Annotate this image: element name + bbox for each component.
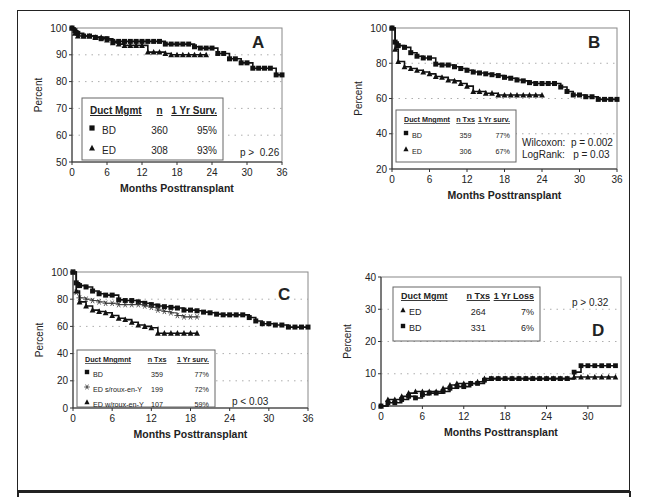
legend-header: 1 Yr Loss bbox=[494, 291, 534, 301]
y-tick-label: 70 bbox=[56, 103, 68, 114]
panel-label: A bbox=[252, 33, 264, 52]
legend-label: ED bbox=[102, 145, 116, 156]
square-marker-icon bbox=[227, 312, 232, 317]
panel-label: B bbox=[588, 33, 600, 52]
square-marker-icon bbox=[169, 42, 174, 47]
square-marker-icon bbox=[599, 363, 604, 368]
square-marker-icon bbox=[537, 376, 542, 381]
square-marker-icon bbox=[234, 312, 239, 317]
y-tick-label: 20 bbox=[365, 336, 377, 347]
legend: Duct Mngmntn Txs1 Yr surv.BD35977%ED s/r… bbox=[77, 350, 215, 409]
square-marker-icon bbox=[596, 97, 601, 102]
star-marker-icon bbox=[168, 310, 174, 315]
square-marker-icon bbox=[392, 400, 397, 405]
legend-n: 264 bbox=[471, 307, 486, 317]
square-marker-icon bbox=[77, 283, 82, 288]
x-tick-label: 36 bbox=[276, 167, 288, 178]
square-marker-icon bbox=[116, 297, 121, 302]
square-marker-icon bbox=[188, 308, 193, 313]
square-marker-icon bbox=[592, 363, 597, 368]
square-marker-icon bbox=[399, 397, 404, 402]
square-marker-icon bbox=[186, 42, 191, 47]
x-tick-label: 12 bbox=[136, 167, 148, 178]
series-ed-s-roux-en-y bbox=[70, 269, 200, 319]
x-tick-label: 12 bbox=[461, 174, 473, 185]
x-tick-label: 30 bbox=[582, 411, 594, 422]
star-marker-icon bbox=[161, 309, 167, 314]
y-axis-label: Percent bbox=[342, 324, 353, 359]
square-marker-icon bbox=[396, 43, 401, 48]
x-tick-label: 24 bbox=[224, 413, 236, 424]
x-tick-label: 30 bbox=[241, 167, 253, 178]
square-marker-icon bbox=[85, 370, 89, 374]
x-axis-label: Months Posttransplant bbox=[444, 426, 558, 438]
series-bd bbox=[390, 26, 620, 102]
square-marker-icon bbox=[546, 81, 551, 86]
square-marker-icon bbox=[590, 94, 595, 99]
x-tick-label: 0 bbox=[378, 411, 384, 422]
square-marker-icon bbox=[483, 71, 488, 76]
series-ed bbox=[389, 25, 545, 98]
square-marker-icon bbox=[413, 396, 418, 401]
y-axis-label: Percent bbox=[33, 78, 44, 113]
legend-n: 359 bbox=[151, 370, 163, 379]
x-tick-label: 6 bbox=[427, 174, 433, 185]
legend-value: 59% bbox=[195, 400, 210, 409]
square-marker-icon bbox=[440, 63, 445, 68]
square-marker-icon bbox=[163, 42, 168, 47]
square-marker-icon bbox=[239, 60, 244, 65]
square-marker-icon bbox=[157, 39, 162, 44]
square-marker-icon bbox=[572, 370, 577, 375]
square-marker-icon bbox=[540, 81, 545, 86]
square-marker-icon bbox=[175, 42, 180, 47]
square-marker-icon bbox=[168, 305, 173, 310]
square-marker-icon bbox=[215, 51, 220, 56]
square-marker-icon bbox=[401, 324, 405, 328]
series-bd bbox=[379, 363, 618, 408]
x-tick-label: 36 bbox=[302, 413, 314, 424]
square-marker-icon bbox=[461, 384, 466, 389]
square-marker-icon bbox=[448, 386, 453, 391]
square-marker-icon bbox=[434, 391, 439, 396]
y-tick-label: 10 bbox=[365, 368, 377, 379]
square-marker-icon bbox=[402, 45, 407, 50]
y-tick-label: 40 bbox=[57, 348, 69, 359]
square-marker-icon bbox=[527, 80, 532, 85]
star-marker-icon bbox=[116, 302, 122, 307]
x-axis-label: Months Posttransplant bbox=[448, 189, 562, 201]
legend-label: ED bbox=[409, 307, 422, 317]
star-marker-icon bbox=[83, 297, 89, 302]
chart-panel-b: 20406080100061218243036Months Posttransp… bbox=[353, 23, 623, 202]
legend-value: 72% bbox=[195, 385, 210, 394]
x-tick-label: 18 bbox=[499, 174, 511, 185]
x-tick-label: 12 bbox=[146, 413, 158, 424]
square-marker-icon bbox=[268, 66, 273, 71]
p-value-annotation: LogRank: p = 0.03 bbox=[522, 149, 610, 160]
square-marker-icon bbox=[162, 304, 167, 309]
square-marker-icon bbox=[406, 394, 411, 399]
square-marker-icon bbox=[210, 46, 215, 51]
legend-header: 1 Yr surv. bbox=[177, 355, 209, 364]
square-marker-icon bbox=[608, 97, 613, 102]
legend-label: ED s/roux-en-Y bbox=[93, 385, 142, 394]
square-marker-icon bbox=[496, 376, 501, 381]
y-tick-label: 0 bbox=[370, 401, 376, 412]
square-marker-icon bbox=[613, 363, 618, 368]
square-marker-icon bbox=[602, 97, 607, 102]
square-marker-icon bbox=[533, 81, 538, 86]
square-marker-icon bbox=[502, 75, 507, 80]
legend-header: n bbox=[156, 105, 162, 116]
square-marker-icon bbox=[465, 68, 470, 73]
square-marker-icon bbox=[521, 78, 526, 83]
x-tick-label: 6 bbox=[420, 411, 426, 422]
panel-label: D bbox=[592, 321, 604, 340]
x-tick-label: 30 bbox=[574, 174, 586, 185]
square-marker-icon bbox=[552, 81, 557, 86]
star-marker-icon bbox=[187, 314, 193, 319]
x-tick-label: 0 bbox=[69, 167, 75, 178]
square-marker-icon bbox=[221, 51, 226, 56]
legend-row: BD36095% bbox=[89, 125, 217, 136]
x-tick-label: 0 bbox=[389, 174, 395, 185]
legend-header: Duct Mngmnt bbox=[85, 355, 132, 364]
square-marker-icon bbox=[458, 66, 463, 71]
